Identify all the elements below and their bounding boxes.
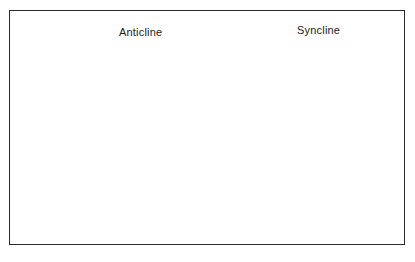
syncline-label: Syncline bbox=[297, 24, 340, 36]
image-border-frame bbox=[9, 10, 405, 245]
figure-container: Anticline Syncline bbox=[0, 0, 415, 262]
anticline-label: Anticline bbox=[119, 26, 162, 38]
